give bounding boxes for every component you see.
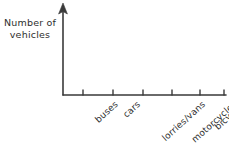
y-axis-label: Number of vehicles: [2, 17, 58, 41]
y-axis-label-line-2: vehicles: [2, 29, 58, 41]
y-axis-label-line-1: Number of: [2, 17, 58, 29]
bar-chart-figure: Number of vehicles buses cars lorries/va…: [0, 0, 229, 154]
